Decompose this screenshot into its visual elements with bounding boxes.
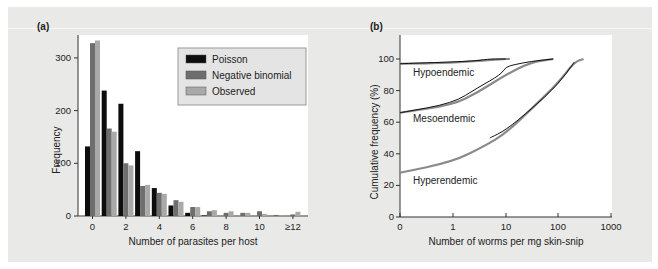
bar-observed — [245, 213, 250, 216]
bar-poisson — [102, 91, 107, 216]
annotation-hypoendemic: Hypoendemic — [413, 67, 474, 78]
x-tick-label: 10 — [501, 221, 512, 232]
y-tick-label: 20 — [383, 179, 394, 190]
panel-label-a: (a) — [37, 21, 49, 32]
x-tick-label: 0 — [90, 221, 95, 232]
legend-label: Negative binomial — [212, 70, 292, 81]
x-tick-label: 8 — [223, 221, 228, 232]
bar-observed — [128, 165, 133, 216]
bar-negative-binomial — [90, 43, 95, 216]
bar-poisson — [202, 215, 207, 216]
x-tick-label: 0 — [397, 221, 402, 232]
y-tick-label: 100 — [378, 53, 394, 64]
bar-poisson — [152, 188, 157, 216]
x-axis-label-b: Number of worms per mg skin-snip — [428, 236, 583, 247]
legend-swatch — [186, 87, 206, 95]
bar-observed — [145, 185, 150, 216]
y-tick-label: 300 — [55, 52, 71, 63]
bar-observed — [295, 212, 300, 216]
bar-negative-binomial — [157, 193, 162, 216]
bar-negative-binomial — [290, 214, 295, 216]
bar-poisson — [118, 104, 123, 216]
bar-observed — [95, 41, 100, 216]
bar-negative-binomial — [107, 129, 112, 216]
x-tick-label: 100 — [550, 221, 566, 232]
x-tick-label: 2 — [123, 221, 128, 232]
x-tick-label: 1 — [450, 221, 455, 232]
y-axis-label-b: Cumulative frequency (%) — [369, 84, 380, 199]
bar-poisson — [185, 213, 190, 216]
bar-negative-binomial — [240, 213, 245, 216]
bar-negative-binomial — [123, 163, 128, 216]
legend-label: Observed — [212, 86, 255, 97]
y-tick-label: 40 — [383, 148, 394, 159]
bar-negative-binomial — [207, 211, 212, 216]
y-tick-label: 60 — [383, 116, 394, 127]
y-tick-label: 0 — [389, 211, 394, 222]
annotation-mesoendemic: Mesoendemic — [413, 113, 475, 124]
bar-negative-binomial — [274, 215, 279, 216]
bar-negative-binomial — [224, 213, 229, 216]
bar-negative-binomial — [257, 211, 262, 216]
bar-observed — [262, 214, 267, 216]
x-tick-label: 1000 — [600, 221, 621, 232]
x-tick-label: 6 — [190, 221, 195, 232]
x-axis-label-a: Number of parasites per host — [129, 236, 258, 247]
annotation-hyperendemic: Hyperendemic — [413, 175, 477, 186]
bar-observed — [279, 215, 284, 216]
bar-poisson — [85, 146, 90, 216]
bar-observed — [229, 211, 234, 216]
bar-observed — [179, 202, 184, 216]
x-tick-label: ≥12 — [285, 221, 301, 232]
legend-a: PoissonNegative binomialObserved — [178, 48, 306, 105]
legend-label: Poisson — [212, 54, 248, 65]
bar-negative-binomial — [140, 186, 145, 216]
figure: (a) 01002003000246810≥12 PoissonNegative… — [0, 0, 658, 269]
y-tick-label: 0 — [66, 210, 71, 221]
bar-negative-binomial — [190, 207, 195, 216]
legend-swatch — [186, 55, 206, 63]
bar-observed — [212, 210, 217, 216]
bar-poisson — [135, 151, 140, 216]
y-axis-label-a: Frequency — [51, 126, 62, 173]
bar-negative-binomial — [174, 200, 179, 216]
bar-observed — [195, 207, 200, 216]
x-tick-label: 10 — [254, 221, 265, 232]
bar-poisson — [169, 205, 174, 216]
bar-observed — [162, 194, 167, 216]
legend-swatch — [186, 71, 206, 79]
bar-observed — [112, 132, 117, 216]
y-tick-label: 200 — [55, 105, 71, 116]
panel-label-b: (b) — [370, 21, 383, 32]
y-tick-label: 80 — [383, 85, 394, 96]
x-tick-label: 4 — [157, 221, 162, 232]
